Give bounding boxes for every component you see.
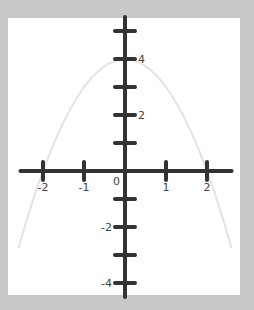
x-tick-label: 2: [204, 181, 211, 194]
y-tick-label: -2: [101, 221, 112, 234]
y-tick-label: 2: [138, 109, 145, 122]
origin-label: 0: [113, 175, 120, 188]
axes-layer: [20, 17, 231, 297]
y-tick-label: 4: [138, 53, 145, 66]
x-tick-label: 1: [163, 181, 170, 194]
x-tick-label: -2: [38, 181, 49, 194]
chart-svg: -2-112-4-2240: [0, 0, 254, 310]
y-tick-label: -4: [101, 277, 112, 290]
x-tick-label: -1: [79, 181, 90, 194]
